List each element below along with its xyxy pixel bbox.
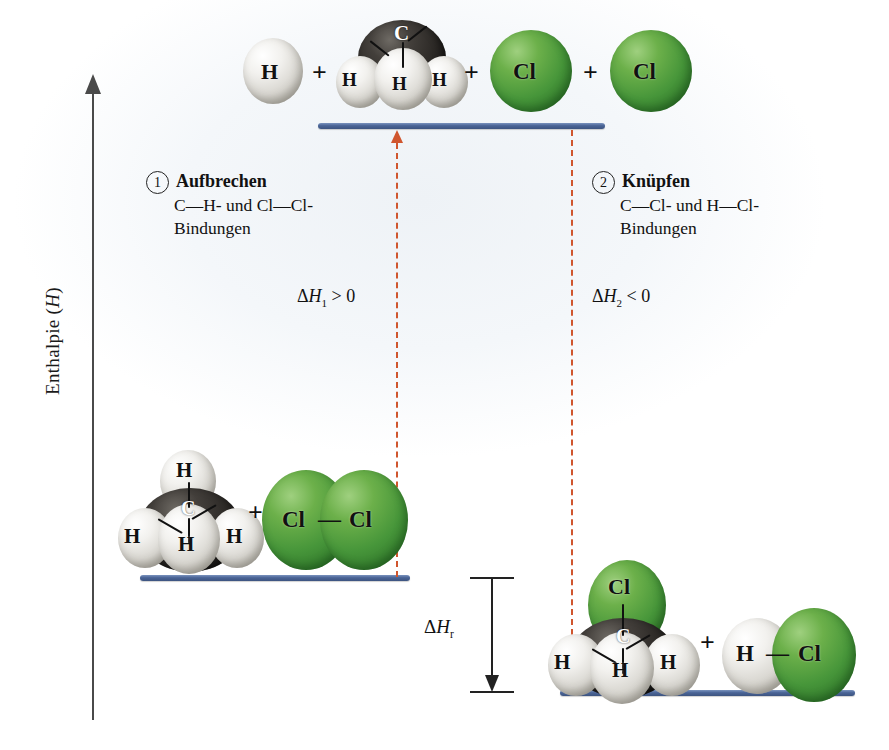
atom-label-cl-top: Cl xyxy=(608,576,630,598)
atom-label-cl: Cl xyxy=(798,642,821,665)
molecule-hydrogen-chloride: H — Cl xyxy=(722,608,856,698)
atom-label-h-bottom: H xyxy=(612,660,628,681)
plus-sign-products: + xyxy=(700,630,715,656)
atom-label-c: C xyxy=(616,626,630,646)
atom-label-h-left: H xyxy=(554,652,570,673)
molecule-group-products: Cl C H H H + H — Cl xyxy=(0,0,889,720)
enthalpy-diagram: Enthalpie (H) 1 Aufbrechen C—H- und Cl—C… xyxy=(0,0,889,750)
bond-h-cl-label: — xyxy=(766,642,789,665)
molecule-chloromethane: Cl C H H H xyxy=(548,560,700,692)
atom-label-h: H xyxy=(736,642,754,665)
atom-label-h-right: H xyxy=(660,652,676,673)
